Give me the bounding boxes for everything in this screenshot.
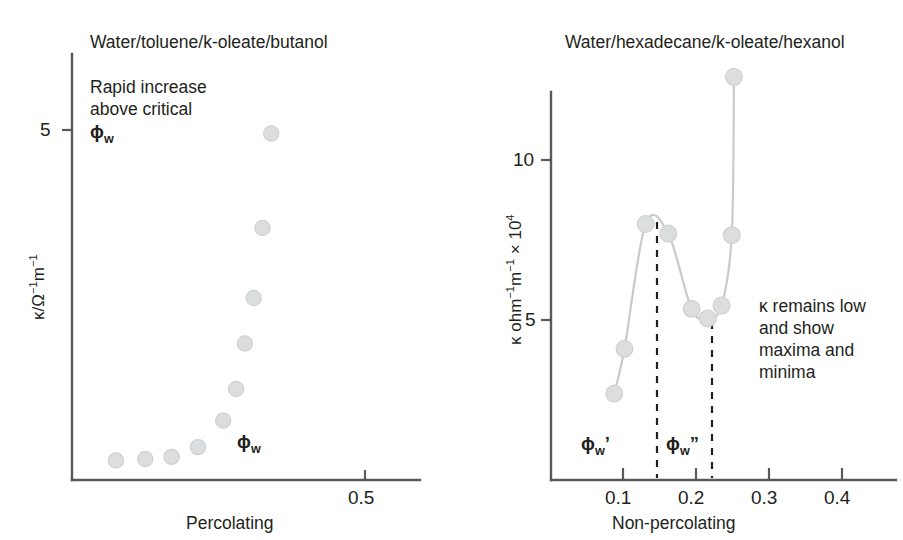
left-annotation-line-2: above critical bbox=[90, 98, 192, 120]
right-phi-prime-label: ϕw’ bbox=[581, 432, 610, 456]
left-chart-title: Water/toluene/k-oleate/butanol bbox=[90, 31, 328, 53]
left-y-tick-label-5: 5 bbox=[40, 118, 51, 142]
data-point-marker bbox=[108, 453, 123, 468]
right-phi-double-prime-label: ϕw” bbox=[666, 432, 699, 456]
right-annotation-line-3: maxima and bbox=[759, 339, 854, 361]
right-x-tick-label-02: 0.2 bbox=[678, 486, 704, 510]
data-point-marker bbox=[216, 413, 231, 428]
left-annotation-line-1: Rapid increase bbox=[90, 76, 207, 98]
right-chart-panel: Water/hexadecane/k-oleate/hexanol 10 5 0… bbox=[451, 0, 903, 540]
data-point-marker bbox=[723, 227, 740, 244]
left-x-tick-label-05: 0.5 bbox=[348, 486, 374, 510]
data-point-marker bbox=[616, 340, 633, 357]
data-point-marker bbox=[726, 68, 743, 85]
right-data-markers bbox=[606, 68, 743, 402]
data-point-marker bbox=[660, 225, 677, 242]
data-point-marker bbox=[246, 290, 261, 305]
left-annotation-phi: ϕw bbox=[90, 120, 114, 144]
data-point-marker bbox=[228, 381, 243, 396]
data-point-marker bbox=[264, 126, 279, 141]
right-x-tick-label-01: 0.1 bbox=[605, 486, 631, 510]
data-point-marker bbox=[606, 385, 623, 402]
data-point-marker bbox=[713, 297, 730, 314]
right-annotation-line-2: and show bbox=[759, 317, 834, 339]
right-y-axis-label: κ ohm−1m−1 × 104 bbox=[505, 214, 527, 345]
right-chart-caption: Non-percolating bbox=[612, 512, 736, 534]
right-y-tick-label-10: 10 bbox=[513, 148, 534, 172]
data-point-marker bbox=[255, 220, 270, 235]
data-point-marker bbox=[138, 451, 153, 466]
right-annotation-line-4: minima bbox=[759, 361, 815, 383]
left-phi-marker-label: ϕw bbox=[237, 430, 261, 454]
data-point-marker bbox=[683, 300, 700, 317]
left-chart-caption: Percolating bbox=[186, 512, 274, 534]
left-plot-svg bbox=[0, 0, 452, 540]
right-x-tick-label-04: 0.4 bbox=[824, 486, 850, 510]
left-y-axis-label: κ/Ω−1m−1 bbox=[28, 254, 50, 320]
data-point-marker bbox=[637, 216, 654, 233]
left-chart-panel: Water/toluene/k-oleate/butanol Rapid inc… bbox=[0, 0, 452, 540]
data-point-marker bbox=[190, 440, 205, 455]
left-data-markers bbox=[108, 0, 299, 468]
data-point-marker bbox=[164, 449, 179, 464]
data-point-marker bbox=[699, 310, 716, 327]
right-chart-title: Water/hexadecane/k-oleate/hexanol bbox=[565, 31, 845, 53]
right-annotation-line-1: κ remains low bbox=[759, 295, 866, 317]
right-x-tick-label-03: 0.3 bbox=[751, 486, 777, 510]
data-point-marker bbox=[237, 336, 252, 351]
